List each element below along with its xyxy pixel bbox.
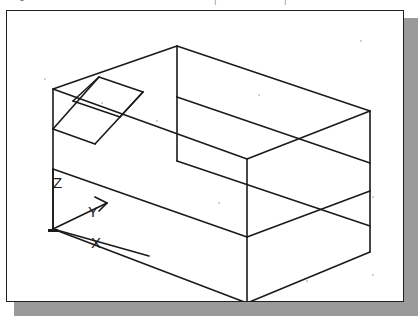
scan-speck: [258, 94, 260, 96]
edge-mid-front-to-right: [247, 191, 370, 237]
screenshot-page: ●•—••|•|•: [0, 0, 420, 324]
edge-top-back-to-right: [177, 46, 370, 111]
scan-speck: [372, 274, 374, 276]
bleed-glyph: •: [140, 0, 145, 4]
bleed-glyph: •: [248, 0, 253, 4]
bleed-glyph: |: [214, 0, 217, 4]
edge-mid-left-to-front: [53, 169, 247, 237]
edge-bottom-front-to-right: [247, 252, 370, 302]
block-edges: [53, 46, 370, 302]
edge-top-front-to-left: [53, 89, 247, 159]
scan-speck: [156, 120, 158, 122]
bleed-glyph: •: [322, 0, 327, 4]
axis-label-y: Y: [88, 203, 98, 220]
axis-label-z: Z: [53, 174, 62, 191]
scan-speck: [44, 78, 46, 80]
axis-label-x: X: [91, 234, 101, 251]
figure-frame: Z Y X: [6, 10, 404, 302]
scan-speck: [360, 40, 362, 42]
scan-speck: [218, 202, 220, 204]
edge-back-interior-low: [177, 161, 370, 226]
slot-edge-bottom: [53, 129, 95, 144]
slot-edge-top: [99, 77, 143, 92]
angled-slot-edges: [53, 77, 143, 144]
bleed-glyph: |: [284, 0, 287, 4]
edge-top-right-to-front: [247, 111, 370, 159]
slot-edge-inner-diag-a: [73, 101, 120, 117]
bleed-glyph: •: [178, 0, 183, 4]
scan-speck: [306, 280, 308, 282]
edge-bottom-left-to-front: [53, 229, 247, 302]
top-text-bleed: ●•—••|•|•: [0, 0, 420, 9]
bleed-glyph: •: [60, 0, 65, 4]
origin-marker: [48, 229, 58, 232]
scan-speck: [372, 196, 374, 198]
bleed-glyph: —: [96, 0, 109, 4]
cad-wireframe-drawing: Z Y X: [7, 11, 404, 302]
scan-speck: [101, 102, 103, 104]
axis-labels: Z Y X: [53, 174, 101, 251]
slot-edge-inner-diag-b: [120, 92, 143, 117]
bleed-glyph: ●: [18, 0, 26, 4]
edge-back-interior-mid: [177, 97, 370, 163]
axis-y-line: [53, 203, 107, 229]
